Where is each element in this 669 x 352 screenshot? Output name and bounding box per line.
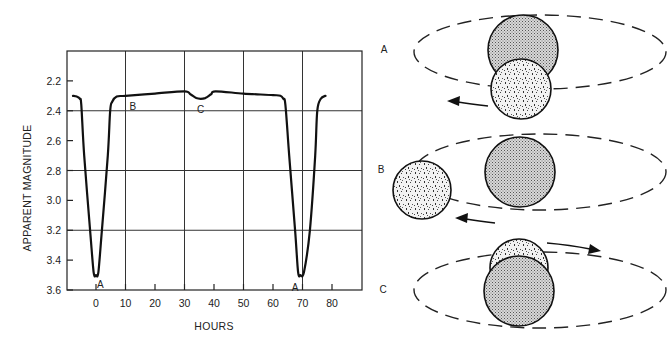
panel-label-b: B <box>378 164 385 175</box>
large-star-b <box>485 137 555 207</box>
y-tick-label: 3.4 <box>46 254 61 266</box>
x-tick-label: 70 <box>297 297 309 309</box>
orbit-arrow-b <box>455 213 495 223</box>
small-star-a <box>491 59 551 119</box>
y-gridlines <box>67 111 362 231</box>
diagram-panel-b: B <box>378 134 666 223</box>
light-curve-chart: 2.22.42.62.83.03.23.43.6 010203040506070… <box>21 51 362 332</box>
y-tick-label: 3.6 <box>46 284 61 296</box>
panel-label-c: C <box>379 284 386 295</box>
y-tick-label: 2.6 <box>46 135 61 147</box>
y-axis-title: APPARENT MAGNITUDE <box>21 125 33 252</box>
curve-annotations: ABCA <box>97 101 299 293</box>
x-tick-label: 60 <box>267 297 279 309</box>
curve-annotation-b: B <box>130 101 137 112</box>
panel-label-a: A <box>381 44 388 55</box>
x-tick-label: 30 <box>179 297 191 309</box>
diagram-panel-a: A <box>381 15 666 119</box>
y-tick-label: 3.2 <box>46 224 61 236</box>
x-tick-label: 20 <box>149 297 161 309</box>
curve-annotation-a: A <box>292 282 299 293</box>
figure: 2.22.42.62.83.03.23.43.6 010203040506070… <box>0 0 669 352</box>
x-tick-label: 80 <box>326 297 338 309</box>
small-star-b <box>393 161 451 219</box>
x-axis-title: HOURS <box>194 320 233 332</box>
curve-annotation-c: C <box>197 104 204 115</box>
x-axis-ticks: 01020304050607080 <box>93 284 338 309</box>
curve-annotation-a: A <box>97 279 104 290</box>
y-tick-label: 3.0 <box>46 194 61 206</box>
y-axis-ticks: 2.22.42.62.83.03.23.43.6 <box>46 75 73 296</box>
large-star-c <box>484 256 554 326</box>
x-tick-label: 50 <box>238 297 250 309</box>
diagram-panel-c: C <box>379 239 666 328</box>
y-tick-label: 2.4 <box>46 105 61 117</box>
orbit-arrow-a <box>447 96 488 106</box>
y-tick-label: 2.2 <box>46 75 61 87</box>
y-tick-label: 2.8 <box>46 165 61 177</box>
x-tick-label: 0 <box>93 297 99 309</box>
light-curve-line <box>73 91 326 276</box>
x-tick-label: 10 <box>120 297 132 309</box>
x-tick-label: 40 <box>208 297 220 309</box>
